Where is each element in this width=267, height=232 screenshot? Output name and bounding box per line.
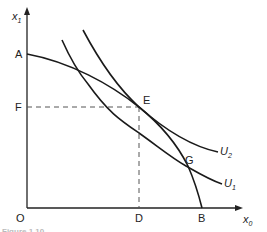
y-axis-label: x1 (11, 10, 22, 24)
axes (24, 7, 243, 211)
indifference-curve-U1 (62, 40, 222, 184)
figure-caption: Figure 1.10 (2, 227, 45, 232)
ppf-curve-AB (27, 54, 202, 208)
y-axis-arrow-icon (24, 7, 30, 15)
labels: x1 x0 O A F E G D B U2 U1 Figure 1.10 (2, 10, 253, 232)
x-axis-arrow-icon (235, 205, 243, 211)
point-label-G: G (185, 154, 194, 166)
origin-label: O (16, 212, 25, 224)
point-label-E: E (143, 94, 150, 106)
curve-label-U2: U2 (220, 145, 232, 159)
indifference-curve-U2 (83, 30, 218, 152)
x-axis-label: x0 (242, 213, 253, 227)
point-label-A: A (15, 48, 23, 60)
point-label-F: F (15, 101, 22, 113)
ppf-indifference-diagram: x1 x0 O A F E G D B U2 U1 Figure 1.10 (0, 0, 267, 232)
curve-label-U1: U1 (224, 177, 236, 191)
point-label-D: D (135, 212, 143, 224)
guide-lines (27, 107, 139, 208)
point-label-B: B (198, 212, 205, 224)
